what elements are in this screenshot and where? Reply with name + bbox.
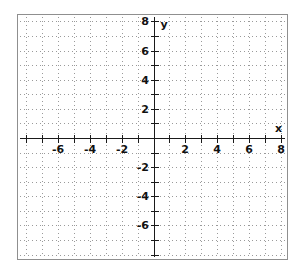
y-tick-label: 6 [141,46,149,57]
x-tick-label: -2 [116,144,128,155]
figure-canvas: -6-4-224688642-2-4-6 x y [0,0,304,277]
x-tick-label: 6 [245,144,253,155]
y-tick-label: -4 [137,191,149,202]
y-tick-label: 8 [141,17,149,27]
x-tick-label: 2 [181,144,189,155]
x-tick-label: -4 [84,144,96,155]
x-axis-label: x [275,123,282,134]
x-tick-label: 4 [213,144,221,155]
plot-area: -6-4-224688642-2-4-6 x y [20,17,285,257]
y-tick-label: 4 [141,75,149,86]
y-tick-label: -2 [137,162,149,173]
x-tick-label: -6 [52,144,64,155]
y-axis-label: y [161,19,168,30]
plot-frame: -6-4-224688642-2-4-6 x y [17,14,288,260]
axes-lines [20,17,285,257]
x-tick-label: 8 [277,144,285,155]
y-tick-label: -6 [137,220,149,231]
y-tick-label: 2 [141,104,149,115]
